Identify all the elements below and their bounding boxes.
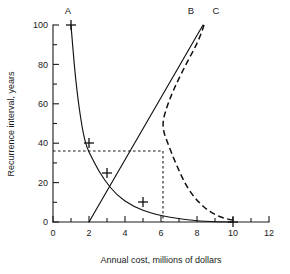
x-tick-label-8: 8: [194, 228, 199, 238]
x-tick-label-10: 10: [228, 228, 238, 238]
y-tick-label-40: 40: [38, 138, 48, 148]
x-axis-title: Annual cost, millions of dollars: [100, 255, 222, 265]
x-tick-label-12: 12: [264, 228, 274, 238]
recurrence-interval-vs-annual-cost-chart: 0 20 40 60 80 100 0 2 4: [0, 0, 290, 274]
y-tick-label-20: 20: [38, 178, 48, 188]
y-tick-label-80: 80: [38, 60, 48, 70]
x-tick-label-4: 4: [122, 228, 127, 238]
y-tick-label-0: 0: [43, 217, 48, 227]
chart-figure: 0 20 40 60 80 100 0 2 4: [0, 0, 290, 274]
y-axis-title: Recurrence interval, years: [6, 71, 16, 177]
x-tick-label-6: 6: [158, 228, 163, 238]
curve-label-b: B: [188, 5, 194, 16]
y-tick-label-60: 60: [38, 99, 48, 109]
x-tick-label-2: 2: [86, 228, 91, 238]
x-tick-label-0: 0: [50, 228, 55, 238]
chart-background: [0, 0, 290, 274]
curve-label-a: A: [65, 5, 72, 16]
curve-label-c: C: [213, 5, 220, 16]
y-tick-label-100: 100: [33, 20, 48, 30]
